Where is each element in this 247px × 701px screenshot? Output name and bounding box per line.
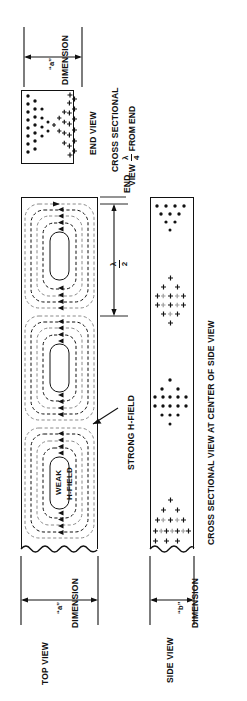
side-view-dimension-arrow xyxy=(0,0,247,701)
side-view-label: SIDE VIEW xyxy=(165,637,175,683)
side-view-b-dimension-label: DIMENSION xyxy=(190,578,200,628)
figure-canvas: “a” DIMENSION END VIEW CROSS SECTIONAL V… xyxy=(0,0,247,701)
side-view-b-dimension-quote: “b” xyxy=(176,601,185,614)
